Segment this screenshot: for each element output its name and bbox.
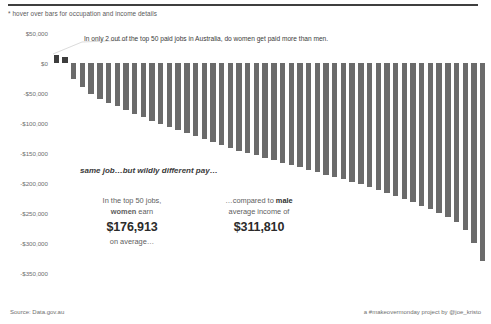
bar[interactable] <box>62 57 67 64</box>
bar-slot[interactable] <box>445 26 450 288</box>
bar-slot[interactable] <box>367 26 372 288</box>
bar-slot[interactable] <box>306 26 311 288</box>
bar-slot[interactable] <box>62 26 67 288</box>
bar-slot[interactable] <box>323 26 328 288</box>
bar[interactable] <box>219 63 224 145</box>
bar[interactable] <box>88 63 93 94</box>
bar[interactable] <box>419 63 424 206</box>
bar[interactable] <box>54 55 59 63</box>
bar[interactable] <box>175 63 180 130</box>
bar-slot[interactable] <box>254 26 259 288</box>
bar[interactable] <box>106 63 111 103</box>
bar[interactable] <box>141 63 146 117</box>
bar-slot[interactable] <box>71 26 76 288</box>
bar-slot[interactable] <box>97 26 102 288</box>
bar-slot[interactable] <box>289 26 294 288</box>
bar-slot[interactable] <box>402 26 407 288</box>
bar[interactable] <box>341 63 346 179</box>
bar[interactable] <box>271 63 276 160</box>
bar-slot[interactable] <box>454 26 459 288</box>
bar[interactable] <box>463 63 468 230</box>
bar[interactable] <box>245 63 250 153</box>
bar-slot[interactable] <box>54 26 59 288</box>
bar[interactable] <box>323 63 328 175</box>
bar-slot[interactable] <box>123 26 128 288</box>
bar-slot[interactable] <box>376 26 381 288</box>
bar-slot[interactable] <box>236 26 241 288</box>
bar-slot[interactable] <box>167 26 172 288</box>
bar[interactable] <box>132 63 137 113</box>
bar-slot[interactable] <box>106 26 111 288</box>
bar[interactable] <box>254 63 259 155</box>
bar[interactable] <box>158 63 163 124</box>
bar-slot[interactable] <box>480 26 485 288</box>
bar-slot[interactable] <box>184 26 189 288</box>
bar[interactable] <box>315 63 320 172</box>
bar-slot[interactable] <box>228 26 233 288</box>
bar[interactable] <box>436 63 441 213</box>
bar-slot[interactable] <box>202 26 207 288</box>
bar-slot[interactable] <box>358 26 363 288</box>
bar[interactable] <box>262 63 267 158</box>
bar[interactable] <box>384 63 389 193</box>
bar[interactable] <box>289 63 294 165</box>
bar-slot[interactable] <box>219 26 224 288</box>
bar[interactable] <box>376 63 381 190</box>
bar[interactable] <box>410 63 415 202</box>
bar[interactable] <box>210 63 215 142</box>
bar[interactable] <box>80 63 85 87</box>
bar-slot[interactable] <box>315 26 320 288</box>
bar-slot[interactable] <box>428 26 433 288</box>
bar[interactable] <box>445 63 450 217</box>
bar-slot[interactable] <box>245 26 250 288</box>
bar[interactable] <box>71 63 76 79</box>
bar[interactable] <box>236 63 241 151</box>
bar[interactable] <box>193 63 198 136</box>
bar-slot[interactable] <box>341 26 346 288</box>
bar-slot[interactable] <box>175 26 180 288</box>
bar-slot[interactable] <box>393 26 398 288</box>
bar-slot[interactable] <box>158 26 163 288</box>
bar[interactable] <box>202 63 207 139</box>
bar-slot[interactable] <box>349 26 354 288</box>
bar[interactable] <box>471 63 476 243</box>
bar[interactable] <box>228 63 233 148</box>
bar[interactable] <box>97 63 102 99</box>
bar-slot[interactable] <box>384 26 389 288</box>
bar[interactable] <box>167 63 172 127</box>
bar[interactable] <box>184 63 189 133</box>
bar[interactable] <box>123 63 128 110</box>
bar[interactable] <box>454 63 459 222</box>
bar-slot[interactable] <box>149 26 154 288</box>
bar[interactable] <box>480 63 485 261</box>
bar[interactable] <box>280 63 285 163</box>
bar[interactable] <box>115 63 120 106</box>
bar-slot[interactable] <box>332 26 337 288</box>
bar[interactable] <box>393 63 398 196</box>
bar[interactable] <box>402 63 407 199</box>
bar-slot[interactable] <box>271 26 276 288</box>
bar-slot[interactable] <box>436 26 441 288</box>
bar-slot[interactable] <box>297 26 302 288</box>
bar[interactable] <box>349 63 354 182</box>
bar[interactable] <box>297 63 302 167</box>
bar-slot[interactable] <box>262 26 267 288</box>
bar-slot[interactable] <box>410 26 415 288</box>
bar-slot[interactable] <box>141 26 146 288</box>
bar[interactable] <box>306 63 311 170</box>
bar-slot[interactable] <box>210 26 215 288</box>
bar[interactable] <box>149 63 154 121</box>
bar-slot[interactable] <box>80 26 85 288</box>
bar-slot[interactable] <box>463 26 468 288</box>
bar[interactable] <box>428 63 433 209</box>
bar[interactable] <box>358 63 363 184</box>
bar[interactable] <box>367 63 372 187</box>
bar-slot[interactable] <box>193 26 198 288</box>
bar-slot[interactable] <box>132 26 137 288</box>
bar[interactable] <box>332 63 337 177</box>
bar-slot[interactable] <box>419 26 424 288</box>
bar-slot[interactable] <box>88 26 93 288</box>
bar-slot[interactable] <box>471 26 476 288</box>
bar-slot[interactable] <box>115 26 120 288</box>
bar-slot[interactable] <box>280 26 285 288</box>
